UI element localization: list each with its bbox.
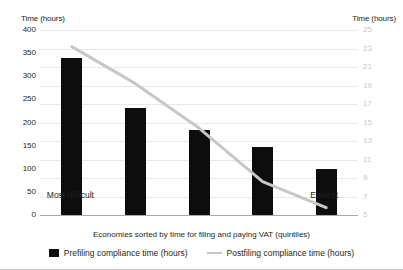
gridline: [40, 104, 358, 105]
line-swatch-icon: [207, 252, 222, 254]
left-tick-0: 0: [32, 211, 36, 219]
left-tick-50: 50: [27, 188, 36, 196]
right-tick-19: 19: [363, 82, 372, 90]
bar-3: [189, 130, 210, 215]
left-tick-150: 150: [23, 142, 36, 150]
right-tick-17: 17: [363, 100, 372, 108]
left-tick-350: 350: [23, 49, 36, 57]
legend-item-prefiling: Prefiling compliance time (hours): [49, 248, 188, 258]
legend-label-postfiling: Postfiling compliance time (hours): [227, 248, 355, 258]
bar-2: [125, 108, 146, 215]
right-tick-25: 25: [363, 26, 372, 34]
right-tick-9: 9: [363, 174, 367, 182]
legend: Prefiling compliance time (hours) Postfi…: [0, 248, 403, 258]
left-tick-100: 100: [23, 165, 36, 173]
gridline: [40, 86, 358, 87]
right-axis-title: Time (hours): [352, 14, 396, 23]
gridline: [40, 49, 358, 50]
left-tick-400: 400: [23, 26, 36, 34]
right-tick-7: 7: [363, 193, 367, 201]
gridline: [40, 215, 358, 216]
left-tick-300: 300: [23, 72, 36, 80]
right-tick-5: 5: [363, 211, 367, 219]
left-axis-title: Time (hours): [21, 14, 65, 23]
right-tick-11: 11: [363, 156, 371, 164]
x-axis-title: Economies sorted by time for filing and …: [0, 230, 403, 239]
right-tick-13: 13: [363, 137, 372, 145]
gridline: [40, 30, 358, 31]
right-tick-15: 15: [363, 119, 372, 127]
bar-swatch-icon: [49, 249, 59, 257]
bar-4: [252, 147, 273, 215]
chart-figure: Time (hours) Time (hours) 40035030025020…: [0, 0, 403, 270]
category-label-easiest: Easiest: [310, 190, 338, 200]
left-tick-250: 250: [23, 95, 36, 103]
gridline: [40, 123, 358, 124]
gridline: [40, 67, 358, 68]
right-tick-23: 23: [363, 45, 372, 53]
left-tick-200: 200: [23, 119, 36, 127]
category-label-most-difficult: Most difficult: [47, 190, 94, 200]
right-tick-21: 21: [363, 63, 372, 71]
legend-item-postfiling: Postfiling compliance time (hours): [207, 248, 355, 258]
legend-label-prefiling: Prefiling compliance time (hours): [64, 248, 188, 258]
plot-area: 400350300250200150100500 252321191715131…: [40, 30, 358, 215]
